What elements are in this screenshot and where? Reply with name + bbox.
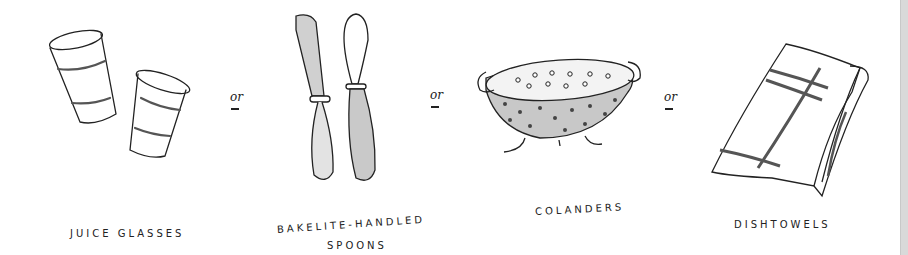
label-dishtowels: DISHTOWELS [734,219,831,230]
label-juice-glasses: JUICE GLASSES [70,228,184,239]
page-edge [900,0,908,255]
or-underline [231,108,239,110]
or-underline [665,108,673,110]
juice-glasses-icon [48,27,192,158]
or-separator: or [664,90,677,104]
dishtowels-icon [712,44,868,196]
or-separator: or [230,90,243,104]
label-spoons: SPOONS [327,240,387,251]
or-separator: or [430,88,443,102]
bakelite-spoons-icon [296,14,375,180]
colander-icon [478,55,640,152]
or-underline [431,106,439,108]
